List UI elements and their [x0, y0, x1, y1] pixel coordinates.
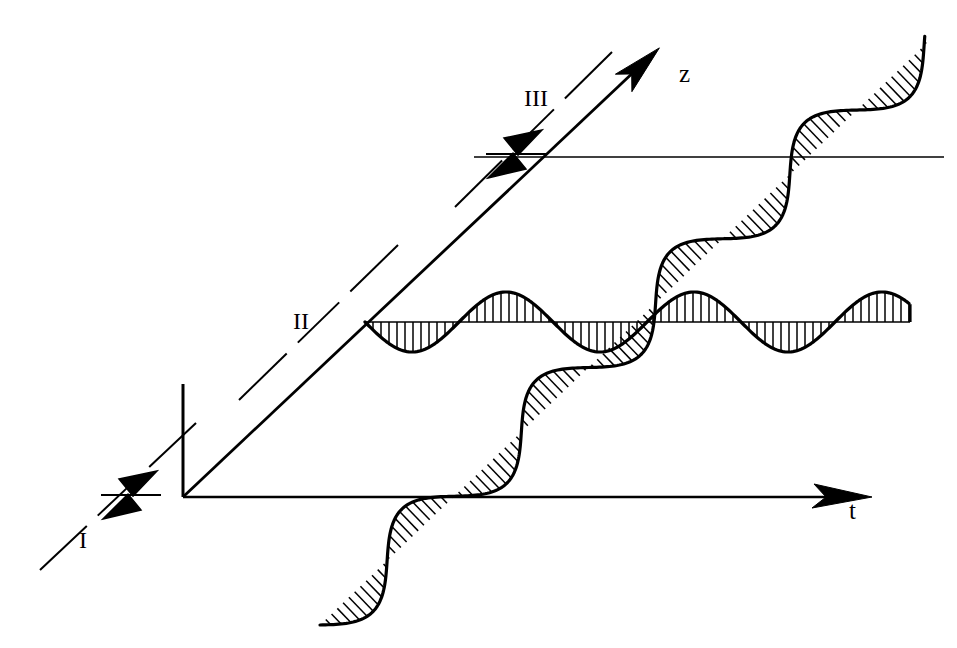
plane-trace-lines [40, 52, 612, 570]
z-axis [183, 48, 659, 497]
longitudinal-wave-z [320, 36, 926, 625]
figure-canvas [0, 0, 957, 648]
z-axis-label: z [679, 60, 690, 88]
t-axis-label: t [849, 497, 856, 525]
plane-label-iii: III [524, 85, 548, 112]
plane-label-ii: II [293, 308, 309, 335]
wave-propagation-figure: z t I II III [0, 0, 957, 648]
plane-direction-markers [101, 130, 546, 519]
plane-label-i: I [79, 527, 87, 554]
t-axis [183, 484, 872, 508]
